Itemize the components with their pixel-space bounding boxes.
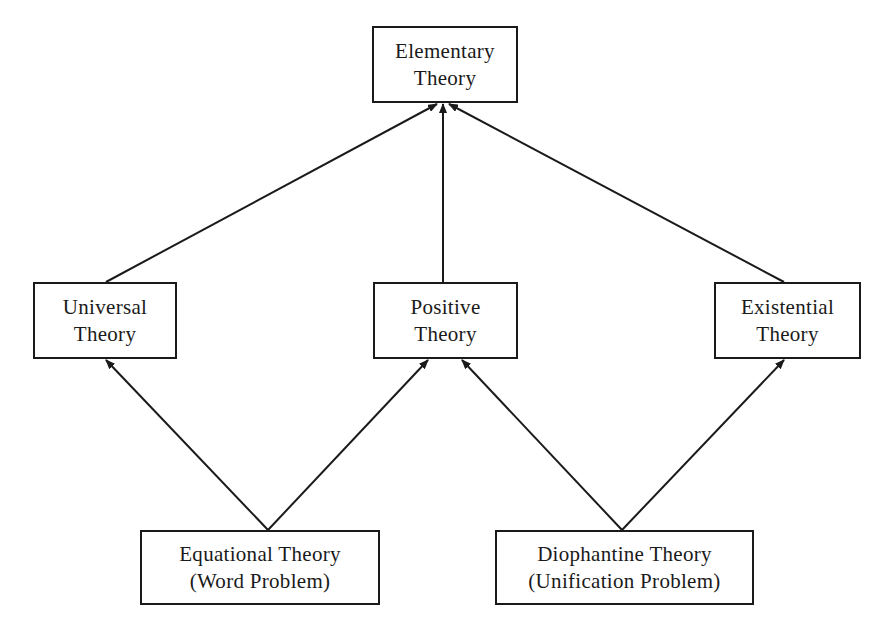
node-elementary-theory: Elementary Theory [372, 26, 518, 103]
node-diophantine-theory: Diophantine Theory (Unification Problem) [495, 530, 754, 605]
edge-equational-to-positive [268, 360, 428, 530]
node-universal-theory: Universal Theory [33, 282, 177, 359]
node-label-line: Diophantine Theory [537, 541, 712, 568]
edge-diophantine-to-existential [622, 360, 784, 530]
edge-universal-to-elementary [106, 104, 437, 282]
node-existential-theory: Existential Theory [714, 282, 861, 359]
node-label-line: Equational Theory [179, 541, 341, 568]
node-label-line: (Word Problem) [190, 568, 331, 595]
node-label-line: (Unification Problem) [528, 568, 720, 595]
edge-existential-to-elementary [449, 104, 784, 282]
node-label-line: Universal [63, 294, 147, 321]
node-label-line: Existential [741, 294, 834, 321]
node-label-line: Theory [414, 321, 476, 348]
node-equational-theory: Equational Theory (Word Problem) [140, 530, 380, 605]
node-label-line: Theory [74, 321, 136, 348]
node-label-line: Theory [414, 65, 476, 92]
node-label-line: Theory [756, 321, 818, 348]
node-positive-theory: Positive Theory [373, 282, 518, 359]
edge-diophantine-to-positive [462, 360, 622, 530]
edge-equational-to-universal [106, 360, 268, 530]
node-label-line: Elementary [395, 38, 495, 65]
theory-hierarchy-diagram: Elementary Theory Universal Theory Posit… [0, 0, 890, 640]
node-label-line: Positive [410, 294, 480, 321]
